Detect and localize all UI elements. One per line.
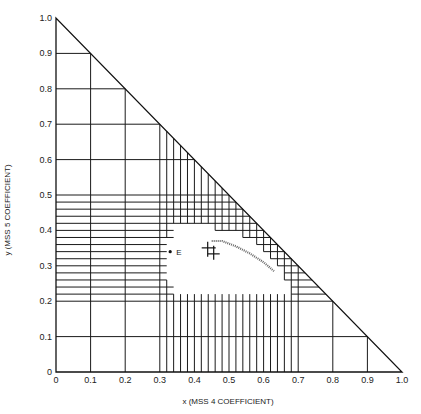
x-tick-label: 1.0: [396, 375, 409, 385]
y-tick-label: 0.3: [39, 261, 52, 271]
y-axis-ticks: 00.10.20.30.40.50.60.70.80.91.0: [39, 13, 52, 377]
y-tick-label: 0.7: [39, 119, 52, 129]
y-tick-label: 0: [47, 367, 52, 377]
x-tick-label: 0.9: [361, 375, 374, 385]
point-e-marker: [169, 250, 172, 253]
y-tick-label: 0.4: [39, 225, 52, 235]
x-tick-label: 0.1: [84, 375, 97, 385]
grid-lines: [56, 53, 367, 372]
x-tick-label: 0.2: [119, 375, 132, 385]
y-tick-label: 0.8: [39, 84, 52, 94]
y-tick-label: 0.9: [39, 48, 52, 58]
cross-marker: [202, 242, 220, 260]
y-tick-label: 0.5: [39, 190, 52, 200]
trajectory-curve: [212, 241, 274, 271]
y-tick-label: 1.0: [39, 13, 52, 23]
y-tick-label: 0.6: [39, 155, 52, 165]
x-axis-label: x (MSS 4 COEFFICIENT): [182, 397, 273, 406]
y-tick-label: 0.1: [39, 332, 52, 342]
x-tick-label: 0.6: [257, 375, 270, 385]
trajectory-line: [212, 241, 274, 271]
point-e-label: E: [176, 248, 181, 257]
x-tick-label: 0.7: [292, 375, 305, 385]
triangle-chart: E 00.10.20.30.40.50.60.70.80.91.0 00.10.…: [0, 0, 421, 414]
x-tick-label: 0.5: [223, 375, 236, 385]
x-tick-label: 0: [53, 375, 58, 385]
x-tick-label: 0.8: [327, 375, 340, 385]
y-tick-label: 0.2: [39, 296, 52, 306]
x-tick-label: 0.3: [154, 375, 167, 385]
annotations: E: [169, 242, 220, 260]
x-tick-label: 0.4: [188, 375, 201, 385]
x-axis-ticks: 00.10.20.30.40.50.60.70.80.91.0: [53, 375, 408, 385]
y-axis-label: y (MSS 5 COEFFICIENT): [3, 164, 12, 255]
